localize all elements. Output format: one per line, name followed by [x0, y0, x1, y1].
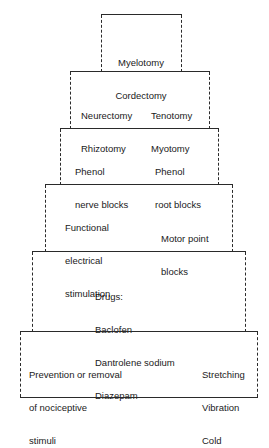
- dashed-edge: [45, 185, 46, 252]
- dashed-edge: [209, 72, 210, 129]
- tier-5-box: Drugs: Baclofen Dantrolene sodium Diazep…: [32, 251, 246, 332]
- dashed-edge: [101, 15, 102, 72]
- dashed-edge: [181, 15, 182, 72]
- tier-5-line: Drugs:: [95, 291, 175, 302]
- tier-6-line: Vibration: [202, 402, 245, 413]
- tier-6-box: Prevention or removal of nociceptive sti…: [20, 331, 258, 398]
- tier-3-box: Phenol nerve blocks Phenol root blocks: [60, 128, 219, 185]
- tier-4-line: Motor point: [161, 233, 209, 244]
- tier-1-box: Myelotomy Cordectomy: [101, 14, 182, 72]
- tier-6-left-text: Prevention or removal of nociceptive sti…: [29, 347, 122, 448]
- tier-3-line: Phenol: [75, 166, 128, 177]
- tier-6-line: Stretching: [202, 369, 245, 380]
- tier-6-line: Prevention or removal: [29, 369, 122, 380]
- dashed-edge: [218, 129, 219, 185]
- tier-6-line: of nociceptive: [29, 402, 122, 413]
- tier-2-line: Tenotomy: [151, 110, 192, 121]
- dashed-edge: [60, 129, 61, 185]
- tier-6-line: Cold: [202, 435, 245, 446]
- tier-2-line: Neurectomy: [81, 110, 132, 121]
- tier-4-line: Functional: [65, 222, 110, 233]
- tier-1-line: Myelotomy: [112, 57, 170, 68]
- dashed-edge: [232, 185, 233, 252]
- tier-6-line: stimuli: [29, 435, 122, 446]
- tier-4-box: Functional electrical stimulation Motor …: [45, 184, 233, 252]
- dashed-edge: [70, 72, 71, 129]
- tier-3-line: Phenol: [155, 166, 201, 177]
- dashed-edge: [245, 252, 246, 332]
- dashed-edge: [32, 252, 33, 332]
- tier-6-right-text: Stretching Vibration Cold: [202, 347, 245, 448]
- dashed-edge: [20, 332, 21, 397]
- tier-2-box: Neurectomy Rhizotomy Tenotomy Myotomy: [70, 71, 210, 129]
- dashed-edge: [257, 332, 258, 397]
